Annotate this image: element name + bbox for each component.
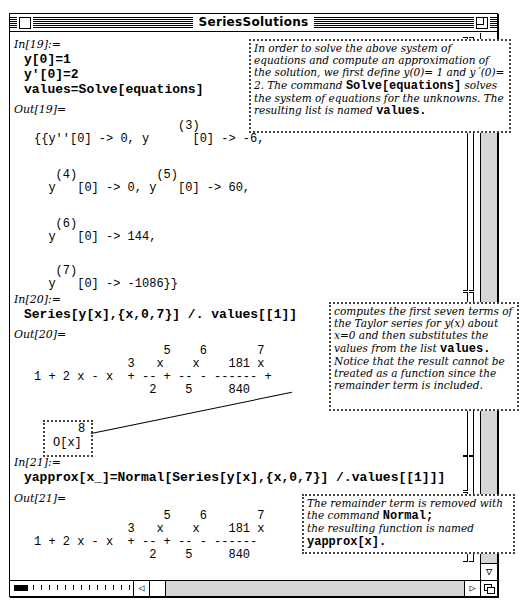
out19-label: Out[19]= xyxy=(14,104,66,116)
remainder-term: O[x] xyxy=(53,437,82,450)
horizontal-scroll-track[interactable] xyxy=(166,581,464,596)
in20-label: In[20]:= xyxy=(14,294,61,306)
annotation-note-solve: In order to solve the above system of eq… xyxy=(249,39,511,133)
ruler-marker[interactable] xyxy=(14,585,28,591)
note3-text-2: the resulting function is named xyxy=(307,522,474,534)
zoom-box-button[interactable] xyxy=(476,17,488,29)
note3-period: . xyxy=(379,535,386,549)
scroll-right-arrow-icon[interactable]: ▷ xyxy=(464,581,480,596)
scroll-left-arrow-icon[interactable]: ◁ xyxy=(134,581,150,596)
in21-input[interactable]: yapprox[x_]=Normal[Series[y[x],{x,0,7}] … xyxy=(24,470,445,485)
out20-line-4: 2 5 840 xyxy=(34,384,250,397)
in19-line-2[interactable]: y'[0]=2 xyxy=(24,67,79,82)
in19-line-3[interactable]: values=Solve[equations] xyxy=(24,82,203,97)
title-bar[interactable]: SeriesSolutions xyxy=(10,14,497,32)
magnification-ruler[interactable] xyxy=(10,581,134,596)
out19-line-11: y [0] -> -1086}} xyxy=(34,278,178,291)
in21-label: In[21]:= xyxy=(14,457,61,469)
callout-connector-line xyxy=(91,392,292,434)
note3-semicolon: ; xyxy=(426,509,433,523)
out20-label: Out[20]= xyxy=(14,329,66,341)
horizontal-scroll-thumb[interactable] xyxy=(150,581,166,596)
note2-period: . xyxy=(483,342,490,356)
in19-line-1[interactable]: y[0]=1 xyxy=(24,52,71,67)
note1-code-solve: Solve[equations] xyxy=(346,79,461,93)
close-box-button[interactable] xyxy=(19,17,31,29)
note1-period: . xyxy=(419,104,426,118)
out21-label: Out[21]= xyxy=(14,493,66,505)
scroll-down-arrow-icon[interactable]: ▽ xyxy=(481,563,497,580)
cell-bracket-in21[interactable] xyxy=(463,456,468,491)
in19-label: In[19]:= xyxy=(14,39,61,51)
resize-grow-box-icon[interactable] xyxy=(480,580,497,596)
note2-text-2: Notice that the result cannot be treated… xyxy=(334,355,505,391)
remainder-term-box: 8 O[x] xyxy=(43,420,93,457)
annotation-note-series: computes the first seven terms of the Ta… xyxy=(329,302,519,411)
out21-line-4: 2 5 840 xyxy=(34,549,250,562)
note3-code-normal: Normal xyxy=(383,509,426,523)
out19-line-5: y [0] -> 0, y [0] -> 60, xyxy=(34,182,250,195)
in20-input[interactable]: Series[y[x],{x,0,7}] /. values[[1]] xyxy=(24,307,297,322)
remainder-exponent: 8 xyxy=(78,423,85,436)
out19-line-8: y [0] -> 144, xyxy=(34,231,156,244)
note3-code-yapprox: yapprox[x] xyxy=(307,535,379,549)
window-title: SeriesSolutions xyxy=(193,15,315,29)
annotation-note-normal: The remainder term is removed with the c… xyxy=(302,494,515,554)
note2-code-values: values xyxy=(440,342,483,356)
horizontal-scrollbar[interactable]: ◁ ▷ xyxy=(10,580,480,596)
out19-line-2: {{y''[0] -> 0, y [0] -> -6, xyxy=(34,133,264,146)
note1-code-values: values xyxy=(376,104,419,118)
